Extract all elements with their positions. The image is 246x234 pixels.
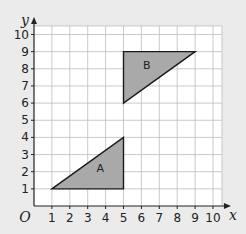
y-tick-label: 9 xyxy=(21,45,29,59)
coordinate-grid: AB1234567891012345678910Oxy xyxy=(0,0,246,234)
x-tick-label: 6 xyxy=(138,211,146,225)
x-tick-label: 4 xyxy=(102,211,110,225)
x-tick-label: 2 xyxy=(66,211,74,225)
y-axis-arrow-icon xyxy=(31,17,37,24)
x-tick-label: 7 xyxy=(155,211,163,225)
shape-label-b: B xyxy=(143,59,151,72)
x-tick-label: 10 xyxy=(205,211,220,225)
y-tick-label: 8 xyxy=(21,62,29,76)
y-tick-label: 6 xyxy=(21,96,29,110)
shape-label-a: A xyxy=(96,162,104,175)
y-axis-label: y xyxy=(20,12,30,28)
y-tick-label: 1 xyxy=(21,182,29,196)
y-tick-label: 4 xyxy=(21,130,29,144)
x-tick-label: 5 xyxy=(120,211,128,225)
y-tick-label: 10 xyxy=(14,28,29,42)
x-axis-label: x xyxy=(229,207,237,223)
x-tick-label: 1 xyxy=(48,211,56,225)
x-tick-label: 3 xyxy=(84,211,92,225)
origin-label: O xyxy=(19,209,31,225)
y-tick-label: 2 xyxy=(21,165,29,179)
x-tick-label: 9 xyxy=(191,211,199,225)
y-tick-label: 3 xyxy=(21,148,29,162)
y-tick-label: 5 xyxy=(21,113,29,127)
x-tick-label: 8 xyxy=(173,211,181,225)
y-tick-label: 7 xyxy=(21,79,29,93)
